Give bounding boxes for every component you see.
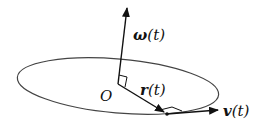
right-angle-marker-point — [160, 107, 182, 111]
omega-label: ω(t) — [133, 26, 165, 44]
position-label: r(t) — [140, 81, 166, 99]
rotation-diagram: ω(t) O r(t) v(t) — [0, 0, 268, 125]
angular-velocity-vector — [118, 8, 127, 84]
origin-label: O — [100, 87, 112, 105]
moving-point — [165, 112, 169, 116]
velocity-label: v(t) — [223, 102, 250, 120]
orbit-ellipse — [15, 50, 221, 121]
